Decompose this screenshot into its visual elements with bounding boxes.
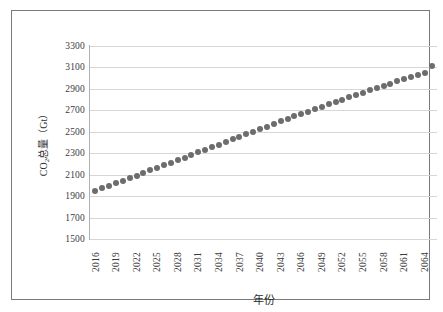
data-point-marker bbox=[236, 134, 242, 140]
data-point-marker bbox=[106, 183, 112, 189]
data-point-marker bbox=[401, 76, 407, 82]
data-point-marker bbox=[319, 104, 325, 110]
y-axis-tick-label: 3100 bbox=[65, 62, 85, 72]
data-point-marker bbox=[353, 92, 359, 98]
y-axis-tick-label: 1700 bbox=[65, 213, 85, 223]
data-point-marker bbox=[285, 116, 291, 122]
x-axis-title: 年份 bbox=[90, 291, 437, 307]
data-point-marker bbox=[250, 129, 256, 135]
data-point-marker bbox=[134, 173, 140, 179]
data-point-marker bbox=[360, 90, 366, 96]
data-point-marker bbox=[298, 111, 304, 117]
y-axis-tick-label: 2300 bbox=[65, 148, 85, 158]
data-point-marker bbox=[429, 63, 435, 69]
data-point-marker bbox=[264, 124, 270, 130]
data-point-marker bbox=[291, 113, 297, 119]
data-point-marker bbox=[422, 70, 428, 76]
data-point-marker bbox=[346, 94, 352, 100]
data-point-marker bbox=[326, 101, 332, 107]
data-point-marker bbox=[243, 131, 249, 137]
gridline bbox=[90, 110, 437, 111]
gridline bbox=[90, 67, 437, 68]
x-axis-tick-label: 2064 bbox=[403, 241, 443, 285]
data-point-marker bbox=[381, 83, 387, 89]
gridline bbox=[90, 132, 437, 133]
data-point-marker bbox=[202, 147, 208, 153]
gridline bbox=[90, 196, 437, 197]
data-point-marker bbox=[113, 180, 119, 186]
data-point-marker bbox=[154, 165, 160, 171]
data-point-marker bbox=[230, 136, 236, 142]
data-point-marker bbox=[127, 175, 133, 181]
data-point-marker bbox=[367, 87, 373, 93]
data-point-marker bbox=[168, 160, 174, 166]
data-point-marker bbox=[312, 106, 318, 112]
data-point-marker bbox=[147, 167, 153, 173]
plot-area bbox=[90, 46, 437, 239]
gridline bbox=[90, 46, 437, 47]
data-point-marker bbox=[387, 81, 393, 87]
chart-frame: CO2总量（Gt） 330031002900270025002300210019… bbox=[11, 10, 430, 300]
data-point-marker bbox=[92, 188, 98, 194]
data-point-marker bbox=[333, 99, 339, 105]
data-point-marker bbox=[394, 78, 400, 84]
data-point-marker bbox=[195, 149, 201, 155]
y-axis-tick-label: 2700 bbox=[65, 105, 85, 115]
data-point-marker bbox=[271, 121, 277, 127]
data-point-marker bbox=[209, 144, 215, 150]
data-point-marker bbox=[99, 185, 105, 191]
y-axis-tick-label: 2900 bbox=[65, 84, 85, 94]
y-axis-tick-labels: 3300310029002700250023002100190017001500 bbox=[12, 46, 85, 239]
gridline bbox=[90, 218, 437, 219]
figure: CO2总量（Gt） 330031002900270025002300210019… bbox=[0, 0, 443, 312]
data-point-marker bbox=[161, 162, 167, 168]
data-point-marker bbox=[175, 157, 181, 163]
y-axis-tick-label: 3300 bbox=[65, 41, 85, 51]
data-point-marker bbox=[182, 155, 188, 161]
x-axis-tick-labels: 2016201920222025202820312034203720402043… bbox=[90, 241, 437, 287]
data-point-marker bbox=[223, 139, 229, 145]
data-point-marker bbox=[188, 152, 194, 158]
gridline bbox=[90, 89, 437, 90]
y-axis-tick-label: 2100 bbox=[65, 170, 85, 180]
data-point-marker bbox=[408, 74, 414, 80]
y-axis-tick-label: 1900 bbox=[65, 191, 85, 201]
gridline bbox=[90, 239, 437, 240]
gridline bbox=[90, 153, 437, 154]
data-point-marker bbox=[339, 97, 345, 103]
data-point-marker bbox=[305, 109, 311, 115]
data-point-marker bbox=[120, 178, 126, 184]
data-point-marker bbox=[415, 72, 421, 78]
data-point-marker bbox=[278, 118, 284, 124]
data-point-marker bbox=[216, 142, 222, 148]
data-point-marker bbox=[374, 85, 380, 91]
y-axis-tick-label: 2500 bbox=[65, 127, 85, 137]
